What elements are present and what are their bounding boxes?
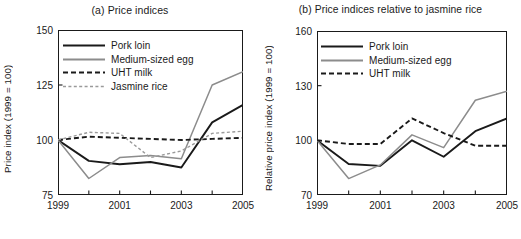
- y-tick-label: 160: [295, 26, 312, 37]
- x-tick-label: 1999: [47, 200, 69, 211]
- legend-item: Pork loin: [62, 39, 194, 53]
- legend-item: UHT milk: [320, 67, 452, 81]
- panel-a-legend: Pork loinMedium-sized eggUHT milkJasmine…: [62, 39, 194, 93]
- y-tick-label: 100: [295, 135, 312, 146]
- series-line: [58, 137, 243, 140]
- legend-item: Medium-sized egg: [62, 53, 194, 67]
- y-tick-label: 100: [36, 135, 53, 146]
- legend-item: Jasmine rice: [62, 80, 194, 94]
- panel-a-y-axis-label: Price index (1999 = 100): [2, 44, 13, 194]
- panel-b-title: (b) Price indices relative to jasmine ri…: [260, 4, 521, 15]
- series-line: [58, 131, 243, 157]
- legend-item-label: Pork loin: [369, 41, 408, 52]
- legend-item-label: UHT milk: [369, 68, 410, 79]
- legend-line-swatch-icon: [62, 54, 106, 65]
- figure-price-indices: (a) Price indices Price index (1999 = 10…: [0, 0, 521, 239]
- series-line: [317, 91, 507, 178]
- x-tick-label: 2003: [433, 200, 455, 211]
- legend-item-label: Medium-sized egg: [369, 55, 452, 66]
- legend-item-label: UHT milk: [111, 67, 152, 78]
- legend-line-swatch-icon: [320, 41, 364, 52]
- panel-a-title: (a) Price indices: [0, 4, 260, 16]
- legend-line-swatch-icon: [62, 67, 106, 78]
- y-tick-label: 130: [295, 80, 312, 91]
- series-line: [317, 118, 507, 145]
- legend-line-swatch-icon: [320, 55, 364, 66]
- panel-b: (b) Price indices relative to jasmine ri…: [260, 0, 521, 239]
- x-tick-label: 2001: [109, 200, 131, 211]
- legend-line-swatch-icon: [62, 81, 106, 92]
- y-tick-label: 150: [36, 25, 53, 36]
- x-tick-label: 1999: [306, 200, 328, 211]
- legend-item: Medium-sized egg: [320, 54, 452, 68]
- y-tick-label: 75: [42, 190, 53, 201]
- panel-b-y-axis-label: Relative price index (1999 = 100): [263, 32, 274, 204]
- x-tick-label: 2001: [369, 200, 391, 211]
- figure-caption-cropped: [0, 231, 521, 239]
- y-tick-label: 125: [36, 80, 53, 91]
- legend-line-swatch-icon: [62, 40, 106, 51]
- y-tick-label: 70: [301, 190, 312, 201]
- series-line: [317, 118, 507, 165]
- legend-item: UHT milk: [62, 66, 194, 80]
- legend-line-swatch-icon: [320, 68, 364, 79]
- x-tick-label: 2003: [170, 200, 192, 211]
- legend-item: Pork loin: [320, 40, 452, 54]
- panel-a: (a) Price indices Price index (1999 = 10…: [0, 0, 260, 239]
- panel-b-legend: Pork loinMedium-sized eggUHT milk: [320, 40, 452, 81]
- x-tick-label: 2005: [232, 200, 254, 211]
- legend-item-label: Pork loin: [111, 40, 150, 51]
- legend-item-label: Medium-sized egg: [111, 54, 194, 65]
- legend-item-label: Jasmine rice: [111, 81, 168, 92]
- x-tick-label: 2005: [496, 200, 518, 211]
